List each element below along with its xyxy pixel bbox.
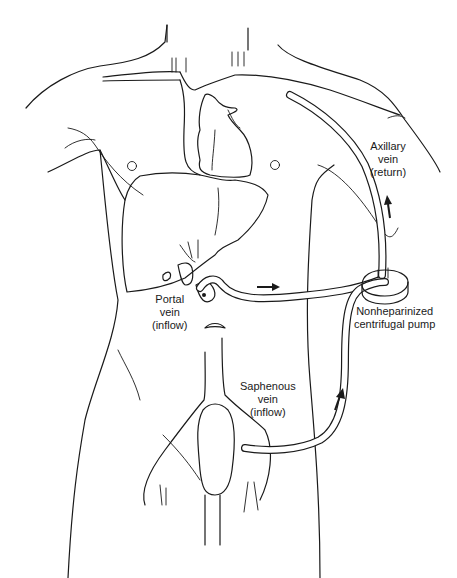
saphenous-vein-label: Saphenous vein (inflow): [240, 380, 296, 419]
left-torso-outline: [68, 150, 118, 578]
left-nipple: [128, 162, 137, 171]
abdomen-right: [222, 338, 270, 500]
left-shoulder-outline: [26, 25, 167, 108]
axillary-vein-label: Axillary vein (return): [370, 140, 406, 179]
subclavian-left: [103, 71, 180, 81]
portal-vein-label: Portal vein (inflow): [152, 293, 187, 332]
scrotum-outline: [198, 404, 235, 495]
liver-outline: [122, 173, 268, 292]
axillary-flow-arrow: [384, 195, 392, 218]
diagram-canvas: Axillary vein (return) Nonheparinized ce…: [0, 0, 457, 578]
portal-flow-arrow: [257, 283, 280, 291]
anatomy-illustration: [0, 0, 457, 578]
heart-outline: [198, 94, 252, 177]
right-torso-outline: [307, 165, 334, 578]
left-arm-outline: [48, 150, 125, 200]
right-nipple: [271, 161, 280, 170]
pump-label: Nonheparinized centrifugal pump: [354, 305, 435, 331]
abdomen-left: [144, 352, 206, 505]
axillary-return-tube: [290, 95, 382, 275]
